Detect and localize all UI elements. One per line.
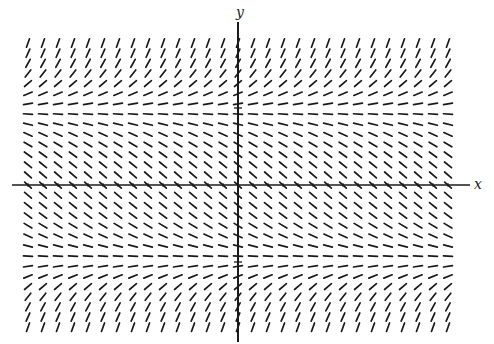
- slope-segment: [384, 152, 391, 157]
- slope-segment: [99, 142, 107, 147]
- slope-segment: [100, 172, 107, 178]
- slope-segment: [190, 284, 197, 290]
- slope-segment: [339, 142, 347, 147]
- slope-segment: [54, 256, 63, 257]
- slope-segment: [190, 293, 196, 300]
- slope-segment: [429, 114, 438, 115]
- slope-segment: [399, 266, 408, 267]
- slope-segment: [324, 245, 333, 247]
- slope-segment: [416, 59, 420, 67]
- slope-segment: [250, 81, 257, 87]
- slope-segment: [279, 266, 288, 267]
- slope-segment: [206, 303, 210, 311]
- slope-segment: [174, 103, 183, 104]
- slope-segment: [129, 213, 136, 218]
- slope-segment: [384, 245, 393, 247]
- slope-segment: [265, 162, 272, 168]
- slope-segment: [370, 192, 377, 198]
- slope-segment: [189, 234, 197, 238]
- slope-segment: [146, 49, 150, 57]
- slope-segment: [69, 123, 78, 125]
- slope-segment: [399, 133, 407, 137]
- slope-segment: [324, 123, 333, 125]
- slope-segment: [431, 323, 434, 331]
- slope-segment: [369, 133, 377, 137]
- slope-segment: [175, 192, 182, 198]
- slope-segment: [326, 39, 329, 47]
- slope-segment: [220, 172, 227, 178]
- slope-segment: [39, 133, 47, 137]
- slope-segment: [25, 162, 32, 168]
- slope-segment: [309, 245, 318, 247]
- slope-segment: [354, 245, 363, 247]
- slope-segment: [25, 293, 31, 300]
- slope-segment: [294, 223, 302, 228]
- slope-segment: [174, 234, 182, 238]
- slope-segment: [295, 192, 302, 198]
- slope-segment: [249, 266, 258, 267]
- slope-segment: [159, 266, 168, 267]
- slope-segment: [264, 103, 273, 104]
- slope-segment: [444, 142, 452, 147]
- slope-segment: [101, 313, 105, 321]
- slope-segment: [99, 133, 107, 137]
- slope-segment: [339, 92, 347, 95]
- slope-segment: [39, 213, 46, 218]
- slope-segment: [401, 323, 404, 331]
- slope-segment: [414, 114, 423, 115]
- slope-segment: [190, 81, 197, 87]
- slope-segment: [414, 142, 422, 147]
- slope-segment: [296, 59, 300, 67]
- slope-segment: [369, 142, 377, 147]
- slope-segment: [100, 203, 107, 209]
- slope-segment: [191, 323, 194, 331]
- slope-segment: [325, 172, 332, 178]
- slope-segment: [400, 284, 407, 290]
- slope-segment: [249, 92, 257, 95]
- slope-segment: [444, 213, 451, 218]
- slope-segment: [371, 303, 375, 311]
- slope-segment: [161, 49, 165, 57]
- slope-segment: [415, 203, 422, 209]
- slope-segment: [54, 92, 62, 95]
- slope-segment: [249, 213, 256, 218]
- slope-segment: [146, 59, 150, 67]
- slope-segment: [311, 49, 315, 57]
- slope-segment: [429, 142, 437, 147]
- slope-segment: [144, 266, 153, 267]
- slope-segment: [55, 293, 61, 300]
- slope-segment: [176, 303, 180, 311]
- slope-segment: [220, 293, 226, 300]
- slope-segment: [69, 133, 77, 137]
- slope-segment: [159, 123, 168, 125]
- slope-segment: [191, 303, 195, 311]
- slope-segment: [416, 39, 419, 47]
- slope-segment: [100, 284, 107, 290]
- slope-segment: [219, 256, 228, 257]
- slope-segment: [220, 284, 227, 290]
- slope-segment: [175, 81, 182, 87]
- slope-segment: [384, 275, 392, 278]
- slope-segment: [414, 152, 421, 157]
- slope-segment: [204, 114, 213, 115]
- slope-segment: [101, 49, 105, 57]
- slope-segment: [56, 323, 59, 331]
- slope-segment: [220, 203, 227, 209]
- slope-segment: [415, 162, 422, 168]
- slope-segment: [145, 172, 152, 178]
- slope-segment: [251, 59, 255, 67]
- slope-segment: [249, 114, 258, 115]
- slope-segment: [145, 203, 152, 209]
- slope-segment: [354, 92, 362, 95]
- slope-segment: [86, 303, 90, 311]
- slope-segment: [55, 162, 62, 168]
- slope-segment: [294, 142, 302, 147]
- slope-segment: [385, 293, 391, 300]
- slope-segment: [310, 81, 317, 87]
- slope-segment: [385, 192, 392, 198]
- slope-segment: [161, 59, 165, 67]
- slope-segment: [249, 256, 258, 257]
- slope-segment: [174, 266, 183, 267]
- slope-segment: [86, 313, 90, 321]
- slope-segment: [294, 245, 303, 247]
